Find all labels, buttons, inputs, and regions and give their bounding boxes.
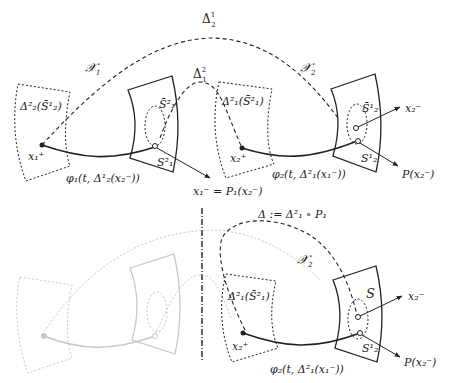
label-mid-box: Δ²₁(S̄²₁) xyxy=(221,95,264,108)
label-X1: 𝒳1 xyxy=(85,60,100,77)
label-S2-1: S¹₂ xyxy=(361,152,377,165)
label-S1-2: S²₁ xyxy=(157,156,173,169)
trajectory-phi2 xyxy=(242,141,357,156)
label-S2bar1: S̄¹₂ xyxy=(362,102,378,115)
label-S1bar2: S̄²₁ xyxy=(159,98,175,111)
point-x1-plus xyxy=(40,143,45,148)
left-dotted-region xyxy=(15,84,70,181)
label-x2-minus: x₂⁻ xyxy=(405,102,422,115)
transition-loop-delta xyxy=(220,221,357,330)
point-x2-plus xyxy=(240,146,245,151)
label-P-x2-bottom: P(x₂⁻) xyxy=(403,356,436,369)
ghost-left-system xyxy=(17,230,320,373)
trajectory-phi1 xyxy=(42,145,155,157)
label-x2-plus: x₂⁺ xyxy=(230,152,247,165)
label-P-x2: P(x₂⁻) xyxy=(401,168,434,181)
label-phi1: φ₁(t, Δ¹₂(x₂⁻)) xyxy=(66,172,140,185)
label-x2-plus-bottom: x₂⁺ xyxy=(232,340,249,353)
label-S2-1-bottom: S¹₂ xyxy=(362,342,378,355)
bottom-panel: Δ := Δ²₁ ∘ P₁ 𝒳2 Δ²₁(S̄²₁) S S¹₂ x₂⁺ x₂⁻… xyxy=(220,208,436,376)
point-x1-minus xyxy=(153,144,158,149)
label-X2-bottom: 𝒳2 xyxy=(297,252,313,269)
point-P-x2 xyxy=(356,139,361,144)
label-X2: 𝒳2 xyxy=(300,60,316,77)
label-S: S xyxy=(366,286,375,301)
label-phi2: φ₂(t, Δ²₁(x₁⁻)) xyxy=(272,168,346,181)
label-phi2-bottom: φ₂(t, Δ²₁(x₁⁻)) xyxy=(270,363,344,376)
dotted-ellipse-1 xyxy=(145,106,165,146)
point-x2-minus xyxy=(354,126,359,131)
label-delta-1-2: Δ21 xyxy=(193,66,207,84)
point-P-x2-bottom xyxy=(358,331,363,336)
diagram-canvas: Δ12 𝒳1 𝒳2 Δ21 Δ²₂(S̄¹₂) Δ²₁(S̄²₁) S̄²₁ S… xyxy=(0,0,453,383)
point-x2-plus-bottom xyxy=(241,331,246,336)
label-delta-def: Δ := Δ²₁ ∘ P₁ xyxy=(257,208,327,221)
bottom-dotted-region xyxy=(222,274,278,362)
label-x1-plus: x₁⁺ xyxy=(28,150,45,163)
label-delta-2-1: Δ12 xyxy=(202,11,216,29)
transition-arc-delta-2-1 xyxy=(42,38,338,145)
label-bottom-box: Δ²₁(S̄²₁) xyxy=(227,290,270,303)
label-x2-minus-bottom: x₂⁻ xyxy=(408,290,425,303)
top-panel: Δ12 𝒳1 𝒳2 Δ21 Δ²₂(S̄¹₂) Δ²₁(S̄²₁) S̄²₁ S… xyxy=(15,11,435,198)
point-x2-minus-bottom xyxy=(356,315,361,320)
label-left-box: Δ²₂(S̄¹₂) xyxy=(19,100,62,113)
trajectory-phi2-bottom xyxy=(243,333,360,345)
label-x1-minus-eq: x₁⁻ = P₁(x₂⁻) xyxy=(193,185,262,198)
transition-arc-delta-1-2 xyxy=(160,82,242,148)
